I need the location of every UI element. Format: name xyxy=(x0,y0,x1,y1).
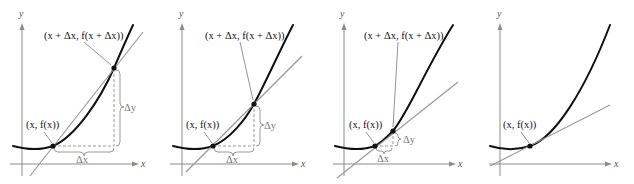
point-label-leader xyxy=(521,132,529,143)
axes: x y xyxy=(489,8,619,176)
secant-to-tangent-figure: x y (x, f(x)) (x + Δx, f(x + Δx)) Δx Δy … xyxy=(0,0,634,184)
panel-2: x y (x, f(x)) (x + Δx, f(x + Δx)) Δx Δy xyxy=(170,8,306,176)
y-axis-arrow-icon xyxy=(498,23,503,30)
lower-label-leader xyxy=(44,132,52,143)
tangent-line xyxy=(490,105,610,166)
function-curve xyxy=(490,25,610,149)
upper-label-leader xyxy=(393,42,398,127)
lower-label-leader xyxy=(204,132,212,143)
delta-y-brace xyxy=(395,133,401,146)
x-axis-arrow-icon xyxy=(605,162,612,167)
delta-x-label: Δx xyxy=(226,154,239,165)
panel-4: x y (x, f(x)) xyxy=(489,8,619,176)
delta-x-label: Δx xyxy=(76,154,89,165)
point-lower-label: (x, f(x)) xyxy=(349,119,383,131)
y-axis-arrow-icon xyxy=(342,23,347,30)
delta-y-label: Δy xyxy=(264,120,277,131)
x-axis-arrow-icon xyxy=(449,162,456,167)
point-tangent xyxy=(527,143,532,148)
lower-label-leader xyxy=(366,132,374,143)
y-axis-arrow-icon xyxy=(180,23,185,30)
point-upper-label: (x + Δx, f(x + Δx)) xyxy=(44,30,124,42)
upper-label-leader xyxy=(240,42,253,100)
y-axis-label: y xyxy=(496,8,502,19)
delta-y-label: Δy xyxy=(124,102,137,113)
delta-y-brace xyxy=(256,106,264,146)
point-lower xyxy=(210,143,215,148)
delta-y-label: Δy xyxy=(403,134,416,145)
upper-label-leader xyxy=(84,42,111,65)
panel-1: x y (x, f(x)) (x + Δx, f(x + Δx)) Δx Δy xyxy=(10,8,146,176)
point-upper xyxy=(111,65,116,70)
point-upper-label: (x + Δx, f(x + Δx)) xyxy=(364,30,444,42)
function-curve xyxy=(13,25,133,149)
point-lower xyxy=(50,143,55,148)
point-lower xyxy=(372,143,377,148)
x-axis-label: x xyxy=(613,158,619,169)
x-axis-arrow-icon xyxy=(292,162,299,167)
y-axis-label: y xyxy=(18,8,24,19)
y-axis-label: y xyxy=(178,8,184,19)
x-axis-label: x xyxy=(140,158,146,169)
x-axis-label: x xyxy=(457,158,463,169)
panel-3: x y (x, f(x)) (x + Δx, f(x + Δx)) Δx Δy xyxy=(333,8,463,178)
point-lower-label: (x, f(x)) xyxy=(503,119,537,131)
delta-x-label: Δx xyxy=(377,153,390,164)
x-axis-label: x xyxy=(300,158,306,169)
delta-y-brace xyxy=(116,70,124,146)
point-upper xyxy=(251,101,256,106)
point-upper-label: (x + Δx, f(x + Δx)) xyxy=(205,30,285,42)
point-lower-label: (x, f(x)) xyxy=(186,119,220,131)
point-upper xyxy=(390,128,395,133)
y-axis-arrow-icon xyxy=(20,23,25,30)
x-axis-arrow-icon xyxy=(132,162,139,167)
point-lower-label: (x, f(x)) xyxy=(26,119,60,131)
secant-line xyxy=(186,56,302,172)
y-axis-label: y xyxy=(339,8,345,19)
